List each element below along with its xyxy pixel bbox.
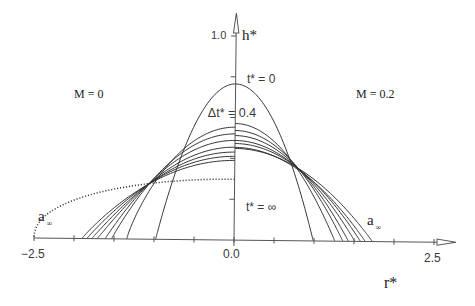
y-axis-arrow-icon [233,13,239,33]
annotation-t-infinity: t* = ∞ [246,200,276,214]
profile-curve-right-1 [234,124,336,242]
annotation-a-infinity-left: a ∞ [38,208,53,228]
profile-curve-left-4 [97,146,235,240]
a-inf-left-base: a [38,208,45,224]
x-tick-label-right: 2.5 [424,251,441,265]
annotation-t0: t* = 0 [247,72,276,86]
profile-curve-right-4 [234,140,356,241]
y-tick-label-1: 1.0 [211,29,226,41]
a-inf-right-base: a [367,212,374,228]
profile-curve-right-3 [234,136,349,242]
profile-curve-right-7 [234,148,373,241]
a-inf-right-sub: ∞ [376,223,382,232]
a-inf-left-sub: ∞ [47,219,53,228]
x-tick-label-center: 0.0 [223,247,240,261]
x-axis-label: r* [384,274,397,291]
profile-curve-left-1 [127,126,235,240]
profile-curve-right-5 [234,144,361,242]
y-axis-label: h* [242,27,257,43]
panel-label-right: M = 0.2 [356,87,394,101]
profile-curve-left-6 [87,155,235,240]
chart: 1.0 h* −2.5 0.0 2.5 r* t* = 0 Δt* = 0.4 … [0,0,475,306]
x-tick-label-left: −2.5 [21,247,45,261]
x-axis-arrow-icon [437,239,456,245]
annotation-a-infinity-right: a ∞ [367,212,382,232]
panel-label-left: M = 0 [74,87,103,101]
annotation-delta-t: Δt* = 0.4 [208,106,256,120]
y-axis [234,33,236,246]
x-axis [34,238,437,242]
profile-curve-left-8 [34,177,235,240]
profile-curves [34,82,374,242]
